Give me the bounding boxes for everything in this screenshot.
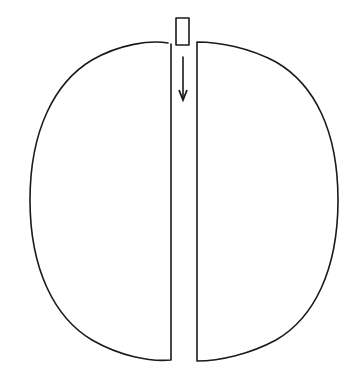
left-semicircle	[30, 42, 171, 360]
downward-arrow-icon	[179, 57, 187, 100]
block-rectangle	[176, 18, 189, 45]
right-semicircle	[197, 42, 338, 361]
split-circle-diagram	[0, 0, 355, 385]
